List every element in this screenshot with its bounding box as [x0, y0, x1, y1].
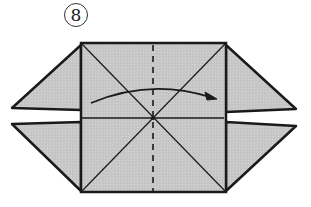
flap-upper-right — [226, 45, 296, 112]
flap-upper-left — [12, 45, 81, 110]
center-point — [151, 116, 155, 120]
origami-diagram: 8 — [0, 0, 311, 207]
flap-lower-left — [12, 122, 81, 191]
flap-lower-right — [226, 122, 296, 191]
